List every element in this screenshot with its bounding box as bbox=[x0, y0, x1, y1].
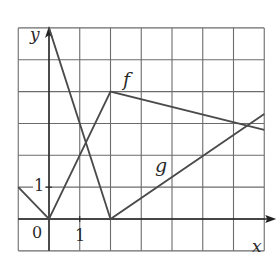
y-tick-label-1: 1 bbox=[33, 178, 45, 194]
curve-label-f: f bbox=[123, 70, 130, 89]
curve-label-g: g bbox=[155, 156, 167, 175]
x-tick-label-1: 1 bbox=[75, 228, 85, 244]
y-axis-label: y bbox=[30, 26, 40, 43]
x-axis-label: x bbox=[252, 238, 262, 255]
origin-label: 0 bbox=[32, 225, 42, 241]
